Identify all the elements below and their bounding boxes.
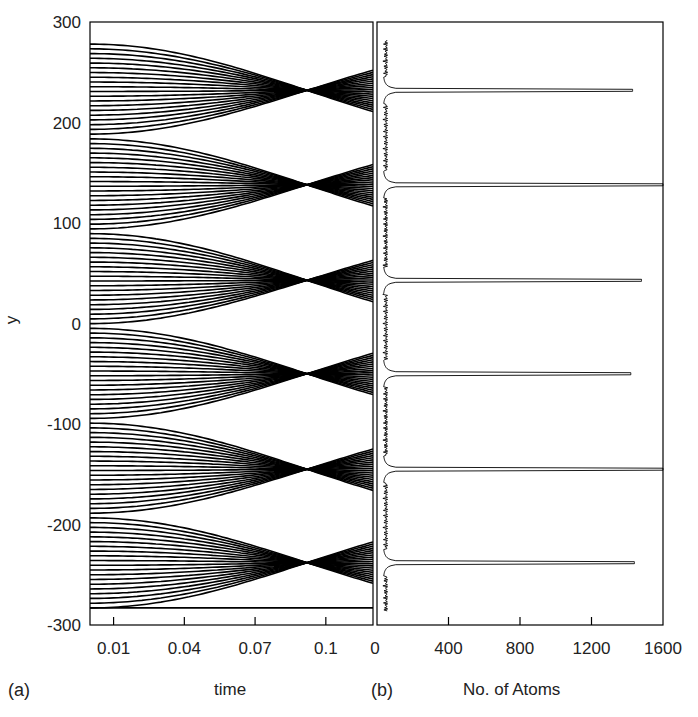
svg-text:-200: -200 — [47, 516, 81, 535]
svg-text:400: 400 — [434, 639, 462, 658]
panel-b-histogram — [383, 40, 663, 611]
panel-b-label: (b) — [371, 680, 393, 701]
y-axis-title: y — [2, 316, 22, 325]
panel-a-label: (a) — [8, 680, 30, 701]
svg-text:-100: -100 — [47, 415, 81, 434]
svg-text:0: 0 — [72, 315, 81, 334]
svg-text:1200: 1200 — [573, 639, 611, 658]
svg-text:100: 100 — [53, 214, 81, 233]
x-axis-title-time: time — [214, 680, 246, 700]
svg-text:200: 200 — [53, 114, 81, 133]
svg-text:0.04: 0.04 — [168, 639, 201, 658]
svg-text:800: 800 — [506, 639, 534, 658]
svg-text:1600: 1600 — [644, 639, 682, 658]
svg-text:0: 0 — [370, 639, 379, 658]
svg-text:0.07: 0.07 — [239, 639, 272, 658]
x-axis-title-atoms: No. of Atoms — [463, 680, 560, 700]
figure: 3002001000-100-200-3000.010.040.070.1040… — [0, 0, 698, 717]
svg-text:0.01: 0.01 — [97, 639, 130, 658]
panel-a-trajectories — [90, 44, 373, 608]
svg-text:-300: -300 — [47, 616, 81, 635]
svg-text:300: 300 — [53, 13, 81, 32]
svg-text:0.1: 0.1 — [314, 639, 338, 658]
